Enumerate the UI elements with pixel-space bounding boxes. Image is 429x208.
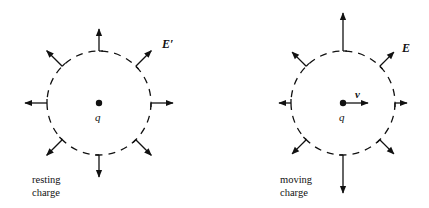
caption-left-line1: resting (32, 174, 61, 185)
caption-left-line2: charge (32, 187, 60, 198)
field-arrow (136, 140, 152, 156)
field-arrow (47, 140, 63, 156)
field-arrow (292, 52, 306, 66)
field-arrow (136, 51, 152, 67)
field-arrow (380, 140, 394, 154)
resting-charge-panel: q E′ resting charge (25, 29, 173, 198)
field-diagram: q E′ resting charge v q E moving charge (0, 0, 429, 208)
field-arrow (292, 140, 306, 154)
charge-label-right: q (339, 111, 345, 123)
caption-right-line1: moving (280, 174, 313, 185)
point-charge-left (96, 100, 102, 106)
moving-charge-panel: v q E moving charge (279, 13, 410, 198)
field-label-right: E (401, 41, 410, 55)
point-charge-right (340, 100, 346, 106)
field-arrow (380, 52, 394, 66)
field-label-left: E′ (161, 37, 173, 51)
charge-label-left: q (95, 111, 101, 123)
field-arrow (47, 51, 63, 67)
velocity-label: v (355, 88, 360, 100)
caption-right-line2: charge (280, 187, 308, 198)
